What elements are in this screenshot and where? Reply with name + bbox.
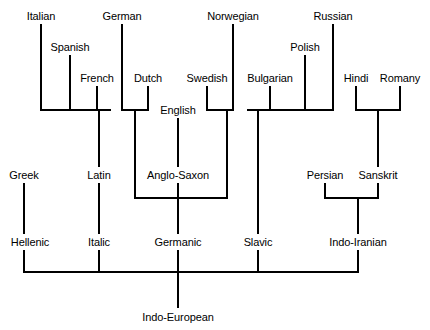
node-label-indo-iranian: Indo-Iranian [329, 236, 387, 248]
node-label-anglo-saxon: Anglo-Saxon [147, 169, 209, 181]
node-label-polish: Polish [290, 41, 319, 53]
node-label-greek: Greek [9, 169, 38, 181]
node-label-italic: Italic [88, 236, 110, 248]
node-label-french: French [80, 72, 114, 84]
node-label-slavic: Slavic [244, 236, 273, 248]
node-label-sanskrit: Sanskrit [359, 169, 398, 181]
node-label-dutch: Dutch [134, 72, 162, 84]
node-label-indo-european: Indo-European [142, 311, 213, 323]
node-label-latin: Latin [87, 169, 110, 181]
node-label-germanic: Germanic [155, 236, 202, 248]
line-layer [23, 24, 401, 308]
node-label-romany: Romany [380, 72, 420, 84]
node-label-russian: Russian [313, 10, 352, 22]
node-label-german: German [102, 10, 141, 22]
node-label-italian: Italian [27, 10, 56, 22]
language-family-tree-figure: ItalianSpanishFrenchGermanDutchEnglishSw… [0, 0, 430, 330]
node-label-hindi: Hindi [344, 72, 369, 84]
node-label-norwegian: Norwegian [207, 10, 259, 22]
node-label-hellenic: Hellenic [11, 236, 49, 248]
node-label-bulgarian: Bulgarian [247, 72, 293, 84]
node-label-swedish: Swedish [187, 72, 228, 84]
node-label-english: English [160, 104, 195, 116]
node-label-persian: Persian [307, 169, 344, 181]
node-label-spanish: Spanish [50, 41, 89, 53]
